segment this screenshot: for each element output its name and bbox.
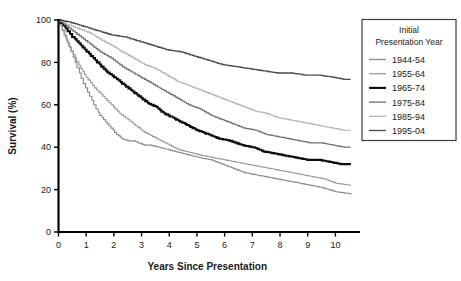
x-tick-label: 7 <box>250 240 255 250</box>
legend-title-line-2: Presentation Year <box>375 37 442 47</box>
x-tick-label: 2 <box>111 240 116 250</box>
y-tick-label: 20 <box>41 185 51 195</box>
y-tick-label: 80 <box>41 58 51 68</box>
legend-label-1965-74: 1965-74 <box>392 83 425 93</box>
legend: InitialPresentation Year1944-541955-6419… <box>362 20 456 141</box>
survival-chart-svg: 020406080100012345678910Years Since Pres… <box>0 0 461 281</box>
legend-label-1975-84: 1975-84 <box>392 98 425 108</box>
x-tick-label: 0 <box>56 240 61 250</box>
x-tick-label: 9 <box>305 240 310 250</box>
y-tick-label: 60 <box>41 100 51 110</box>
y-tick-label: 0 <box>46 227 51 237</box>
legend-label-1955-64: 1955-64 <box>392 69 425 79</box>
x-tick-label: 8 <box>278 240 283 250</box>
legend-label-1995-04: 1995-04 <box>392 126 425 136</box>
x-tick-label: 10 <box>330 240 340 250</box>
y-tick-label: 100 <box>36 15 51 25</box>
survival-curve-1944-54 <box>58 20 351 194</box>
axis-labels-group: 020406080100012345678910Years Since Pres… <box>7 15 340 272</box>
y-axis-title: Survival (%) <box>7 97 18 154</box>
y-tick-label: 40 <box>41 142 51 152</box>
legend-label-1944-54: 1944-54 <box>392 55 425 65</box>
legend-title-line-1: Initial <box>399 25 419 35</box>
x-tick-label: 5 <box>194 240 199 250</box>
survival-chart-figure: 020406080100012345678910Years Since Pres… <box>0 0 461 281</box>
x-tick-label: 4 <box>167 240 172 250</box>
legend-label-1985-94: 1985-94 <box>392 112 425 122</box>
x-tick-label: 6 <box>222 240 227 250</box>
survival-curve-1995-04 <box>59 20 351 79</box>
x-axis-title: Years Since Presentation <box>147 261 267 272</box>
x-tick-label: 1 <box>84 240 89 250</box>
survival-curves-group <box>58 20 351 194</box>
x-tick-label: 3 <box>139 240 144 250</box>
